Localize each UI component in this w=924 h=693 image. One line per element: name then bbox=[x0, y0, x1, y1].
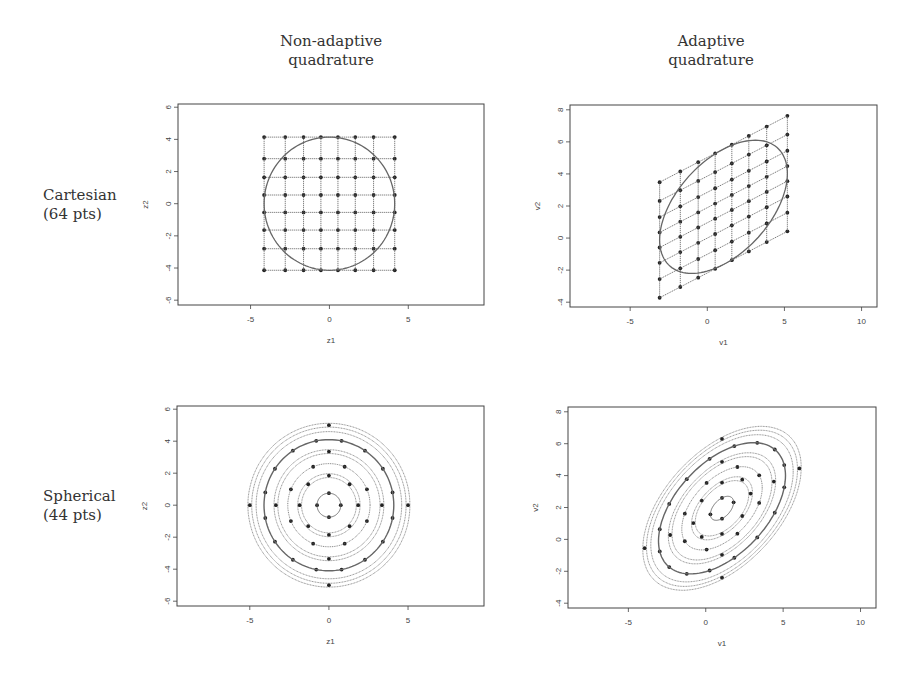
chart-spherical-adaptive: -50510-4-202468v1v2 bbox=[0, 0, 924, 693]
x-tick-label: 0 bbox=[704, 618, 709, 627]
quadrature-point bbox=[735, 532, 739, 536]
quadrature-point bbox=[668, 533, 672, 537]
x-axis-label: v1 bbox=[718, 639, 727, 648]
quadrature-point bbox=[757, 501, 761, 505]
quadrature-point bbox=[700, 535, 704, 539]
quadrature-point bbox=[740, 514, 744, 518]
y-tick-label: 0 bbox=[554, 537, 563, 542]
x-tick-label: 10 bbox=[856, 618, 865, 627]
y-tick-label: 6 bbox=[554, 441, 563, 446]
y-tick-label: -2 bbox=[554, 567, 563, 575]
contour-ring bbox=[710, 496, 733, 520]
contour-ring bbox=[695, 481, 749, 536]
contour-ring bbox=[692, 477, 753, 540]
y-tick-label: 4 bbox=[554, 473, 563, 478]
x-tick-label: -5 bbox=[625, 618, 633, 627]
y-tick-label: 2 bbox=[554, 505, 563, 510]
quadrature-point bbox=[740, 478, 744, 482]
contour-ring bbox=[682, 467, 762, 550]
y-axis: -4-202468 bbox=[554, 409, 568, 607]
contour-ring bbox=[668, 453, 775, 564]
x-tick-label: 5 bbox=[781, 618, 786, 627]
quadrature-point bbox=[797, 467, 801, 471]
y-tick-label: 8 bbox=[554, 409, 563, 414]
x-axis: -50510 bbox=[625, 608, 866, 627]
quadrature-point bbox=[772, 480, 776, 484]
contour-ring bbox=[647, 430, 798, 586]
y-axis-label: v2 bbox=[531, 503, 540, 512]
quadrature-point bbox=[691, 521, 695, 525]
quadrature-point bbox=[749, 492, 753, 496]
quadrature-point bbox=[643, 546, 647, 550]
contour-ring bbox=[651, 435, 793, 582]
y-tick-label: -4 bbox=[554, 599, 563, 607]
